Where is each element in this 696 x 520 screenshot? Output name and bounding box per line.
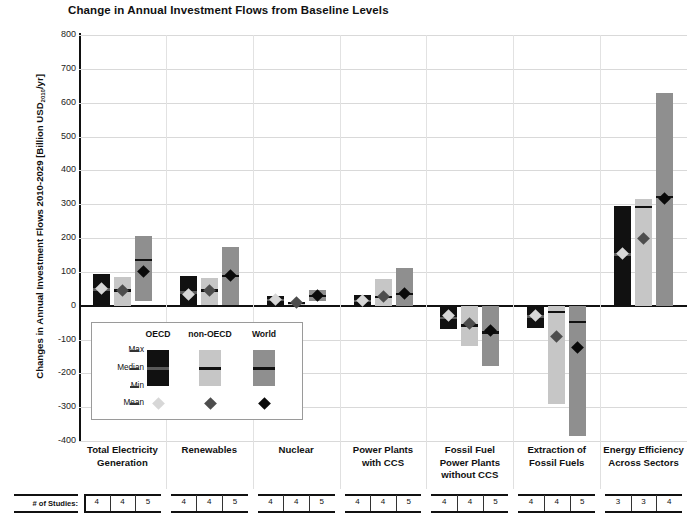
studies-cell-divider bbox=[309, 495, 310, 511]
legend-median-marker bbox=[147, 367, 169, 370]
chart-title: Change in Annual Investment Flows from B… bbox=[68, 4, 628, 16]
legend-dash bbox=[130, 386, 139, 388]
y-tick-label: -200 bbox=[42, 367, 76, 377]
group-separator bbox=[340, 35, 341, 441]
studies-rule bbox=[84, 511, 161, 513]
studies-count-cell: 3 bbox=[631, 497, 657, 506]
studies-rule bbox=[171, 511, 248, 513]
legend-mean-marker bbox=[204, 397, 217, 410]
studies-rule bbox=[431, 494, 508, 496]
studies-cell-divider bbox=[110, 495, 111, 511]
gridline bbox=[79, 441, 687, 442]
legend-dash bbox=[130, 350, 139, 352]
studies-rule bbox=[518, 494, 595, 496]
y-tick-label: -300 bbox=[42, 401, 76, 411]
studies-rule bbox=[605, 511, 682, 513]
legend-mean-marker bbox=[152, 397, 165, 410]
y-tick-label: 800 bbox=[42, 29, 76, 39]
studies-count-cell: 5 bbox=[396, 497, 422, 506]
group-separator bbox=[600, 35, 601, 441]
y-tick-label: 100 bbox=[42, 266, 76, 276]
studies-cell-divider bbox=[570, 495, 571, 511]
group-separator bbox=[513, 35, 514, 441]
studies-cell-divider bbox=[457, 495, 458, 511]
studies-count-cell: 4 bbox=[431, 497, 457, 506]
chart-root: Change in Annual Investment Flows from B… bbox=[0, 0, 696, 520]
studies-rule bbox=[345, 511, 422, 513]
studies-cell-divider bbox=[135, 495, 136, 511]
studies-cell-divider bbox=[222, 495, 223, 511]
bar-extraction-of-fossil-fuels-non-oecd[interactable] bbox=[548, 306, 565, 404]
studies-rule bbox=[605, 494, 682, 496]
category-label-line: Fossil Fuel bbox=[426, 444, 513, 457]
category-label-line: Total Electricity bbox=[79, 444, 166, 457]
gridline bbox=[79, 272, 687, 273]
studies-label-rule bbox=[14, 494, 78, 496]
studies-count-cell: 4 bbox=[84, 497, 110, 506]
category-divider bbox=[600, 441, 601, 489]
studies-table-left-edge bbox=[84, 495, 86, 512]
median-marker bbox=[135, 259, 152, 262]
y-tick-label: -100 bbox=[42, 334, 76, 344]
legend-median-marker bbox=[199, 367, 221, 370]
gridline bbox=[79, 69, 687, 70]
bar-energy-efficiency-across-sectors-non-oecd[interactable] bbox=[635, 199, 652, 306]
category-label-line: Energy Efficiency bbox=[600, 444, 687, 457]
studies-label-rule bbox=[14, 511, 78, 513]
y-tick-label: 300 bbox=[42, 198, 76, 208]
gridline bbox=[79, 238, 687, 239]
studies-count-table: # of Studies: 445445445445445445334 bbox=[0, 494, 696, 516]
legend-median-marker bbox=[253, 367, 275, 370]
studies-cell-divider bbox=[483, 495, 484, 511]
studies-count-cell: 4 bbox=[656, 497, 682, 506]
category-label-line: without CCS bbox=[426, 469, 513, 482]
y-tick-label: -400 bbox=[42, 435, 76, 445]
studies-rule bbox=[258, 494, 335, 496]
y-tick-label: 400 bbox=[42, 164, 76, 174]
median-marker bbox=[635, 206, 652, 209]
category-label-line: Extraction of bbox=[513, 444, 600, 457]
studies-rule bbox=[84, 494, 161, 496]
category-label-nuclear: Nuclear bbox=[253, 444, 340, 457]
y-tick-label: 700 bbox=[42, 63, 76, 73]
y-tick-label: 600 bbox=[42, 97, 76, 107]
studies-rule bbox=[431, 511, 508, 513]
studies-cell-divider bbox=[656, 495, 657, 511]
y-axis-tick-labels: 8007006005004003002001000-100-200-300-40… bbox=[40, 35, 76, 441]
studies-cell-divider bbox=[370, 495, 371, 511]
legend-dash bbox=[130, 368, 139, 370]
studies-count-cell: 5 bbox=[309, 497, 335, 506]
studies-count-cell: 5 bbox=[570, 497, 596, 506]
chart-legend: OECDnon-OECDWorldMaxMedianMinMean bbox=[91, 322, 303, 420]
category-label-line: Power Plants bbox=[340, 444, 427, 457]
studies-rule bbox=[171, 494, 248, 496]
bar-extraction-of-fossil-fuels-world[interactable] bbox=[569, 306, 586, 436]
studies-cell-divider bbox=[283, 495, 284, 511]
studies-cell-divider bbox=[396, 495, 397, 511]
category-divider bbox=[426, 441, 427, 489]
group-separator bbox=[426, 35, 427, 441]
studies-count-cell: 4 bbox=[345, 497, 371, 506]
studies-count-cell: 5 bbox=[135, 497, 161, 506]
studies-cell-divider bbox=[631, 495, 632, 511]
studies-count-cell: 4 bbox=[258, 497, 284, 506]
legend-dash bbox=[130, 403, 139, 405]
studies-count-cell: 4 bbox=[283, 497, 309, 506]
y-tick-label: 0 bbox=[42, 300, 76, 310]
category-divider bbox=[340, 441, 341, 489]
studies-count-cell: 4 bbox=[544, 497, 570, 506]
studies-rule bbox=[258, 511, 335, 513]
studies-count-cell: 4 bbox=[370, 497, 396, 506]
category-label-total-electricity-generation: Total ElectricityGeneration bbox=[79, 444, 166, 469]
y-tick-label: 200 bbox=[42, 232, 76, 242]
category-label-renewables: Renewables bbox=[166, 444, 253, 457]
median-marker bbox=[569, 321, 586, 324]
mean-marker bbox=[290, 297, 303, 310]
studies-cell-divider bbox=[544, 495, 545, 511]
category-divider bbox=[513, 441, 514, 489]
x-axis-category-labels: Total ElectricityGenerationRenewablesNuc… bbox=[79, 444, 687, 492]
studies-rule bbox=[345, 494, 422, 496]
category-label-line: Nuclear bbox=[253, 444, 340, 457]
category-label-energy-efficiency-across-sectors: Energy EfficiencyAcross Sectors bbox=[600, 444, 687, 469]
studies-count-cell: 4 bbox=[518, 497, 544, 506]
